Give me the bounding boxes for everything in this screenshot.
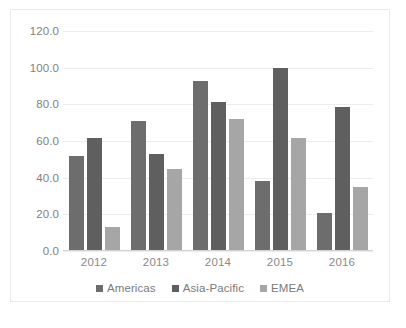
bar[interactable] — [211, 102, 226, 250]
legend-label: EMEA — [271, 282, 304, 294]
bar[interactable] — [105, 227, 120, 250]
plot-area — [63, 31, 373, 251]
y-tick-label: 60.0 — [36, 135, 59, 147]
bar-group — [311, 31, 373, 250]
x-tick-label: 2012 — [63, 256, 125, 268]
bar[interactable] — [291, 138, 306, 250]
x-tick-label: 2013 — [125, 256, 187, 268]
bar[interactable] — [87, 138, 102, 250]
chart-legend: AmericasAsia-PacificEMEA — [11, 282, 389, 294]
bar[interactable] — [335, 107, 350, 250]
legend-swatch-icon — [260, 285, 267, 292]
y-tick-label: 40.0 — [36, 172, 59, 184]
y-tick-label: 80.0 — [36, 98, 59, 110]
bar[interactable] — [131, 121, 146, 250]
bar[interactable] — [353, 187, 368, 250]
x-axis-line — [63, 250, 373, 251]
bar[interactable] — [255, 181, 270, 250]
legend-swatch-icon — [96, 285, 103, 292]
gridline — [63, 251, 373, 252]
x-tick-label: 2016 — [311, 256, 373, 268]
y-axis-labels: 120.0100.080.060.040.020.00.0 — [11, 31, 59, 251]
bar[interactable] — [167, 169, 182, 250]
bar-group — [187, 31, 249, 250]
bar-group — [125, 31, 187, 250]
bar[interactable] — [273, 68, 288, 251]
x-tick-label: 2015 — [249, 256, 311, 268]
legend-label: Americas — [107, 282, 156, 294]
legend-item[interactable]: Asia-Pacific — [172, 282, 244, 294]
bar[interactable] — [149, 154, 164, 250]
y-tick-label: 100.0 — [30, 62, 59, 74]
bar[interactable] — [317, 213, 332, 250]
bar[interactable] — [229, 119, 244, 250]
bar-group — [249, 31, 311, 250]
bar[interactable] — [193, 81, 208, 250]
bar[interactable] — [69, 156, 84, 250]
chart-card: 120.0100.080.060.040.020.00.0 2012201320… — [10, 9, 390, 302]
legend-item[interactable]: EMEA — [260, 282, 304, 294]
legend-swatch-icon — [172, 285, 179, 292]
x-tick-label: 2014 — [187, 256, 249, 268]
legend-label: Asia-Pacific — [183, 282, 244, 294]
y-tick-label: 20.0 — [36, 208, 59, 220]
y-tick-label: 120.0 — [30, 25, 59, 37]
y-tick-label: 0.0 — [43, 245, 59, 257]
cropped-title-sliver — [11, 4, 389, 9]
legend-item[interactable]: Americas — [96, 282, 156, 294]
bar-layer — [63, 31, 373, 250]
x-axis-labels: 20122013201420152016 — [63, 256, 373, 268]
bar-group — [63, 31, 125, 250]
